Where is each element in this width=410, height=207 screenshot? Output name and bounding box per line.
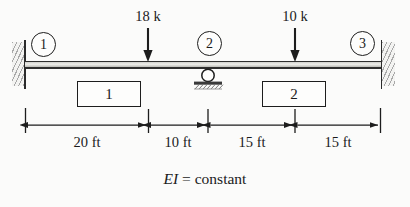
caption-symbol: EI <box>164 170 179 187</box>
member-1-label: 1 <box>105 87 113 102</box>
down-arrow-icon <box>140 28 156 62</box>
dimension-label-1: 20 ft <box>57 134 117 151</box>
dimension-label-3: 15 ft <box>222 134 282 151</box>
load-1-label: 18 k <box>118 8 178 25</box>
node-3-text: 3 <box>359 37 366 51</box>
load-1-arrow <box>140 28 156 62</box>
node-2-text: 2 <box>206 37 213 51</box>
dimension-label-2: 10 ft <box>148 134 208 151</box>
member-2-box: 2 <box>262 81 326 107</box>
right-fixed-support-hatching <box>382 42 395 86</box>
member-1-box: 1 <box>77 81 141 107</box>
node-label-1: 1 <box>31 32 56 57</box>
figure-caption: EI = constant <box>0 170 410 188</box>
beam-diagram: 1 2 3 18 k 10 k 1 2 <box>0 0 410 207</box>
dimension-label-4: 15 ft <box>308 134 368 151</box>
member-2-label: 2 <box>290 87 298 102</box>
load-2-label: 10 k <box>265 8 325 25</box>
load-2-arrow <box>287 28 303 62</box>
node-label-2: 2 <box>197 31 222 56</box>
roller-support-icon <box>186 68 230 90</box>
node-1-text: 1 <box>40 38 47 52</box>
node-label-3: 3 <box>350 31 375 56</box>
caption-rest: = constant <box>178 170 246 187</box>
down-arrow-icon <box>287 28 303 62</box>
roller-support-node-2 <box>186 68 230 90</box>
